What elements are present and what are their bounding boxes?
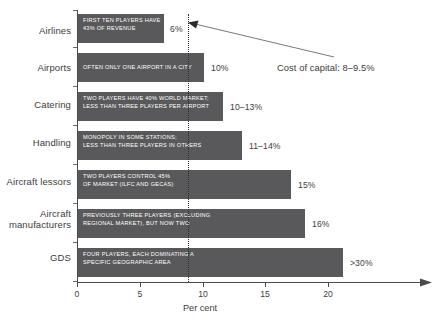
category-label-line1: GDS xyxy=(0,252,71,263)
category-label-line1: Handling xyxy=(0,137,71,148)
y-axis-tick xyxy=(73,203,77,204)
bar-aircraft-lessors: TWO PLAYERS CONTROL 45% OF MARKET (ILFC … xyxy=(78,170,291,199)
y-axis-tick xyxy=(73,10,77,11)
bar-caption: MONOPOLY IN SOME STATIONS; LESS THAN THR… xyxy=(83,134,242,149)
bar-aircraft-manufacturers: PREVIOUSLY THREE PLAYERS (EXCLUDING REGI… xyxy=(78,209,305,238)
bar-caption: TWO PLAYERS HAVE 40% WORLD MARKET; LESS … xyxy=(83,95,223,110)
y-axis-tick xyxy=(73,125,77,126)
bar-chart: Airlines Airports Catering Handling Airc… xyxy=(0,0,439,321)
x-axis-tick xyxy=(140,283,141,287)
bar-value-aircraft-lessors: 15% xyxy=(298,180,316,190)
x-axis-tick xyxy=(77,283,78,287)
bar-catering: TWO PLAYERS HAVE 40% WORLD MARKET; LESS … xyxy=(78,92,223,121)
bar-value-airports: 10% xyxy=(211,63,229,73)
x-axis-tick-label-0: 0 xyxy=(65,289,89,299)
bar-caption: PREVIOUSLY THREE PLAYERS (EXCLUDING REGI… xyxy=(83,212,305,227)
category-label-airports: Airports xyxy=(0,62,71,73)
category-label-catering: Catering xyxy=(0,99,71,110)
category-label-gds: GDS xyxy=(0,252,71,263)
y-axis-tick xyxy=(73,164,77,165)
bar-gds: FOUR PLAYERS, EACH DOMINATING A SPECIFIC… xyxy=(78,248,343,277)
cost-of-capital-annotation: Cost of capital: 8–9.5% xyxy=(277,62,375,73)
category-label-line1: Aircraft lessors xyxy=(0,176,71,187)
bar-caption: FIRST TEN PLAYERS HAVE 43% OF REVENUE xyxy=(83,17,164,32)
category-label-line2: manufacturers xyxy=(0,219,71,230)
bar-value-handling: 11–14% xyxy=(249,141,281,151)
bar-caption: TWO PLAYERS CONTROL 45% OF MARKET (ILFC … xyxy=(83,173,291,188)
category-label-line1: Airports xyxy=(0,62,71,73)
x-axis-title: Per cent xyxy=(140,303,260,313)
bar-value-gds: >30% xyxy=(350,258,373,268)
category-label-line1: Airlines xyxy=(0,25,71,36)
y-axis-tick xyxy=(73,47,77,48)
x-axis-tick-label-10: 10 xyxy=(191,289,215,299)
category-label-airlines: Airlines xyxy=(0,25,71,36)
x-axis-line xyxy=(77,282,422,283)
bar-value-airlines: 6% xyxy=(170,24,183,34)
plot-area: Airlines Airports Catering Handling Airc… xyxy=(0,0,439,321)
x-axis-tick xyxy=(265,283,266,287)
bar-airlines: FIRST TEN PLAYERS HAVE 43% OF REVENUE xyxy=(78,14,164,43)
bar-value-catering: 10–13% xyxy=(230,102,262,112)
category-label-line1: Catering xyxy=(0,99,71,110)
bar-handling: MONOPOLY IN SOME STATIONS; LESS THAN THR… xyxy=(78,131,242,160)
x-axis-tick xyxy=(328,283,329,287)
x-axis-tick-label-15: 15 xyxy=(253,289,277,299)
bar-airports: OFTEN ONLY ONE AIRPORT IN A CITY xyxy=(78,53,204,82)
bar-caption: FOUR PLAYERS, EACH DOMINATING A SPECIFIC… xyxy=(83,251,343,266)
x-axis-tick-label-20: 20 xyxy=(316,289,340,299)
bar-caption: OFTEN ONLY ONE AIRPORT IN A CITY xyxy=(83,56,204,72)
x-axis-tick xyxy=(203,283,204,287)
y-axis-tick xyxy=(73,242,77,243)
category-label-aircraft-lessors: Aircraft lessors xyxy=(0,176,71,187)
bar-value-aircraft-manufacturers: 16% xyxy=(312,219,330,229)
y-axis-tick xyxy=(73,86,77,87)
x-axis-tick-label-5: 5 xyxy=(128,289,152,299)
category-label-aircraft-manufacturers: Aircraft manufacturers xyxy=(0,208,71,230)
cost-of-capital-reference-line xyxy=(188,14,189,282)
category-label-line1: Aircraft xyxy=(0,208,71,219)
category-label-handling: Handling xyxy=(0,137,71,148)
